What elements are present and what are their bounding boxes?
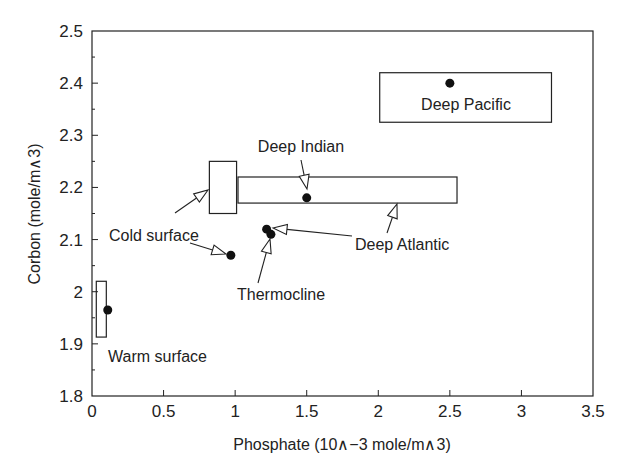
thermocline-arrow [258,239,271,283]
arrow-head-icon [194,190,208,202]
plot-border [92,31,593,396]
y-tick-label: 2.1 [59,231,83,250]
point-thermocline [266,230,275,239]
x-tick-label: 2.5 [438,402,462,421]
x-axis-title: Phosphate (10∧−3 mole/m∧3) [233,436,450,453]
label-warm-surface: Warm surface [108,348,207,365]
point-deep-pacific [445,79,454,88]
cold-surface-range-box [209,161,236,213]
annotation-arrows [175,160,397,283]
deep-atlantic-to-point-arrow [273,224,352,236]
x-tick-label: 0.5 [152,402,176,421]
x-tick-label: 1.5 [295,402,319,421]
y-tick-label: 2.3 [59,126,83,145]
arrow-head-icon [261,239,271,254]
label-deep-pacific: Deep Pacific [421,96,511,113]
y-tick-label: 2 [74,283,83,302]
point-warm-surface [103,305,112,314]
y-axis-title: Corbon (mole/m∧3) [26,144,43,285]
y-tick-label: 1.8 [59,387,83,406]
arrow-head-icon [211,245,226,255]
x-tick-label: 0 [87,402,96,421]
data-points [103,79,454,315]
x-tick-label: 2 [374,402,383,421]
y-tick-label: 2.4 [59,74,83,93]
point-deep-indian [302,193,311,202]
scatter-chart: 00.511.522.533.5 1.81.922.12.22.32.42.5 … [0,0,630,476]
x-tick-label: 1 [230,402,239,421]
y-tick-label: 2.5 [59,22,83,41]
plot-frame [92,31,593,396]
arrow-head-icon [388,204,397,219]
label-thermocline: Thermocline [237,286,325,303]
label-deep-atlantic: Deep Atlantic [355,236,449,253]
point-cold-surface [226,251,235,260]
arrow-head-icon [299,174,309,189]
deep-atlantic-to-box-arrow [387,204,397,233]
cold-surface-to-box-arrow [175,190,208,213]
y-tick-label: 2.2 [59,178,83,197]
chart-canvas: 00.511.522.533.5 1.81.922.12.22.32.42.5 … [0,0,630,476]
label-deep-indian: Deep Indian [258,138,344,155]
x-tick-label: 3 [517,402,526,421]
label-cold-surface: Cold surface [109,227,199,244]
cold-surface-to-point-arrow [190,243,226,255]
deep-indian-arrow [299,160,309,189]
x-tick-label: 3.5 [581,402,605,421]
deep-indian-atlantic-range-box [238,177,457,203]
x-axis: 00.511.522.533.5 [87,390,605,421]
y-tick-label: 1.9 [59,335,83,354]
